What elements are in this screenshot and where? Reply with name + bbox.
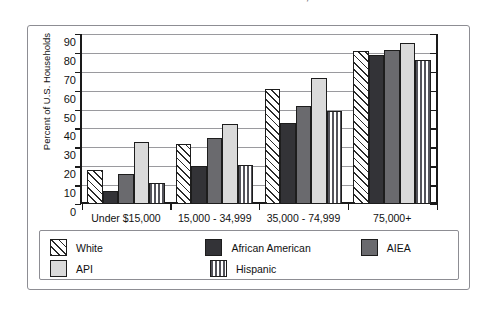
x-tick-label: Under $15,000 [82, 212, 171, 224]
plot-area: Percent of U.S. Households 9080706050403… [28, 26, 471, 211]
y-tick-mark [75, 185, 81, 186]
y-tick-label: 70 [34, 74, 76, 85]
legend-item[interactable]: White [50, 239, 205, 256]
bar-hispanic[interactable] [149, 183, 165, 204]
bar-white[interactable] [87, 170, 103, 204]
y-tick-mark [75, 53, 81, 54]
bar-group [259, 34, 348, 204]
y-tick-label: 0 [34, 207, 76, 218]
bar-groups [82, 34, 437, 204]
y-tick-label: 20 [34, 169, 76, 180]
bar-api[interactable] [311, 78, 327, 204]
x-tick-mark [348, 203, 349, 210]
x-tick-mark [259, 203, 260, 210]
bar-african-american[interactable] [191, 166, 207, 204]
legend-swatch-hispanic [210, 260, 227, 277]
y-tick-mark [430, 72, 437, 73]
legend-row: APIHispanic [50, 258, 458, 279]
legend-item[interactable]: African American [205, 239, 360, 256]
bar-hispanic[interactable] [415, 60, 431, 204]
y-tick-mark [430, 166, 437, 167]
legend-label: Hispanic [236, 263, 276, 275]
y-tick-mark [430, 110, 437, 111]
bar-aiea[interactable] [384, 50, 400, 204]
bar-api[interactable] [400, 43, 416, 204]
legend-label: API [76, 263, 93, 275]
y-tick-mark [75, 204, 81, 205]
y-tick-label: 90 [34, 37, 76, 48]
y-tick-label: 60 [34, 93, 76, 104]
bar-api[interactable] [134, 142, 150, 204]
y-tick-mark [430, 34, 437, 35]
bar-group [348, 34, 437, 204]
legend-swatch-african-american [205, 239, 222, 256]
bar-african-american[interactable] [280, 123, 296, 204]
legend-item[interactable]: AIEA [361, 239, 458, 256]
y-tick-mark [75, 147, 81, 148]
bar-aiea[interactable] [296, 106, 312, 204]
bar-group [82, 34, 171, 204]
y-axis-tick-labels: 9080706050403020100 [34, 34, 76, 204]
x-tick-mark [170, 203, 171, 210]
chart-legend: WhiteAfrican AmericanAIEA APIHispanic [39, 230, 459, 280]
bar-hispanic[interactable] [327, 111, 343, 205]
y-tick-label: 50 [34, 112, 76, 123]
x-axis-tick-labels: Under $15,00015,000 - 34,99935,000 - 74,… [82, 212, 437, 224]
chart-figure: BY INCOME BY RACE GROUP, 1999 Percent of… [0, 0, 494, 314]
y-tick-mark [430, 185, 437, 186]
legend-row: WhiteAfrican AmericanAIEA [50, 237, 458, 258]
x-tick-label: 75,000+ [348, 212, 437, 224]
y-tick-label: 80 [34, 55, 76, 66]
legend-label: White [76, 242, 103, 254]
x-tick-label: 15,000 - 34,999 [170, 212, 259, 224]
bar-white[interactable] [176, 144, 192, 204]
legend-label: African American [231, 242, 310, 254]
legend-swatch-white [50, 239, 67, 256]
x-tick-mark [82, 203, 83, 210]
x-tick-mark [437, 203, 438, 210]
y-tick-label: 30 [34, 150, 76, 161]
chart-title-clipped: BY INCOME BY RACE GROUP, 1999 [0, 0, 494, 8]
x-tick-label: 35,000 - 74,999 [259, 212, 348, 224]
bar-group [170, 34, 259, 204]
x-tick-marks [82, 203, 437, 210]
y-tick-mark [430, 53, 437, 54]
legend-swatch-aiea [361, 239, 378, 256]
bar-white[interactable] [353, 51, 369, 204]
y-tick-mark [430, 147, 437, 148]
bar-white[interactable] [265, 89, 281, 204]
y-tick-mark [430, 128, 437, 129]
y-tick-mark [75, 72, 81, 73]
y-tick-mark [430, 91, 437, 92]
bar-hispanic[interactable] [238, 165, 254, 204]
legend-label: AIEA [387, 242, 411, 254]
legend-item[interactable]: API [50, 260, 210, 277]
bar-aiea[interactable] [207, 138, 223, 204]
plot-canvas [82, 34, 437, 204]
bar-aiea[interactable] [118, 174, 134, 204]
figure-frame: Percent of U.S. Households 9080706050403… [27, 25, 470, 290]
y-tick-mark [75, 91, 81, 92]
y-tick-label: 10 [34, 188, 76, 199]
legend-swatch-api [50, 260, 67, 277]
bar-african-american[interactable] [369, 55, 385, 204]
y-tick-mark [75, 110, 81, 111]
legend-item[interactable]: Hispanic [210, 260, 370, 277]
y-tick-label: 40 [34, 131, 76, 142]
y-tick-mark [75, 166, 81, 167]
y-tick-mark [75, 128, 81, 129]
bar-api[interactable] [222, 124, 238, 204]
y-tick-mark [75, 34, 81, 35]
